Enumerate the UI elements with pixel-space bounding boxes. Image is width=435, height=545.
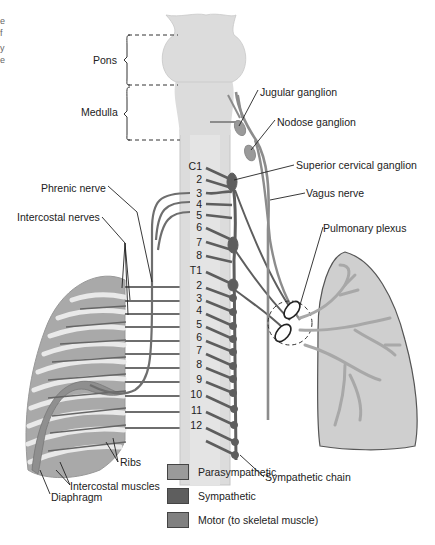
pulmonary-plexus-label: Pulmonary plexus bbox=[323, 222, 406, 234]
nodose-ganglion-label: Nodose ganglion bbox=[277, 116, 356, 128]
level-t3: 3 bbox=[184, 293, 202, 304]
level-t9: 9 bbox=[184, 374, 202, 385]
level-t1: T1 bbox=[184, 265, 202, 276]
motor-swatch bbox=[167, 512, 189, 528]
intercostal-nerves-label: Intercostal nerves bbox=[17, 211, 100, 223]
level-c8: 8 bbox=[184, 250, 202, 261]
level-t10: 10 bbox=[184, 389, 202, 400]
edge-text-fragment: y bbox=[0, 43, 5, 53]
chest-wall bbox=[26, 276, 126, 477]
level-t7: 7 bbox=[184, 345, 202, 356]
sympathetic-swatch bbox=[167, 488, 189, 504]
jugular-ganglion-label: Jugular ganglion bbox=[260, 86, 337, 98]
edge-text-fragment: f bbox=[0, 28, 3, 38]
legend-item-sympathetic: Sympathetic bbox=[167, 484, 318, 508]
edge-text-fragment: e bbox=[0, 16, 5, 26]
lung bbox=[300, 252, 417, 450]
medulla-shape bbox=[175, 80, 234, 135]
level-c6: 6 bbox=[184, 222, 202, 233]
legend: Parasympathetic Sympathetic Motor (to sk… bbox=[167, 460, 318, 532]
diaphragm-label: Diaphragm bbox=[51, 491, 102, 503]
parasympathetic-swatch bbox=[167, 464, 189, 480]
pons-label: Pons bbox=[93, 54, 117, 66]
legend-item-motor: Motor (to skeletal muscle) bbox=[167, 508, 318, 532]
superior-cervical-ganglion-label: Superior cervical ganglion bbox=[296, 159, 417, 171]
level-t8: 8 bbox=[184, 359, 202, 370]
level-t12: 12 bbox=[184, 420, 202, 431]
phrenic-nerve-label: Phrenic nerve bbox=[41, 182, 106, 194]
level-c1: C1 bbox=[184, 161, 202, 172]
legend-label: Parasympathetic bbox=[198, 466, 276, 478]
vagus-nerve-label: Vagus nerve bbox=[306, 187, 364, 199]
legend-item-parasympathetic: Parasympathetic bbox=[167, 460, 318, 484]
level-t11: 11 bbox=[184, 405, 202, 416]
ribs-label: Ribs bbox=[120, 456, 141, 468]
level-c2: 2 bbox=[184, 174, 202, 185]
legend-label: Sympathetic bbox=[198, 490, 256, 502]
pons-shape bbox=[162, 14, 246, 82]
level-t2: 2 bbox=[184, 280, 202, 291]
level-t6: 6 bbox=[184, 332, 202, 343]
level-t5: 5 bbox=[184, 319, 202, 330]
level-c5: 5 bbox=[184, 210, 202, 221]
legend-label: Motor (to skeletal muscle) bbox=[198, 514, 318, 526]
level-c7: 7 bbox=[184, 237, 202, 248]
medulla-label: Medulla bbox=[81, 106, 118, 118]
level-t4: 4 bbox=[184, 305, 202, 316]
edge-text-fragment: e bbox=[0, 55, 5, 65]
